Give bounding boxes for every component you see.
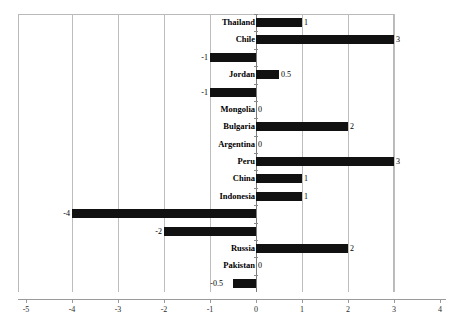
- category-label: Russia: [231, 240, 256, 257]
- x-axis-tick-label: -1: [200, 305, 220, 314]
- category-label: Mongolia: [221, 101, 256, 118]
- bar: [210, 53, 256, 62]
- bar-row: Kyrgyzstan-2: [18, 223, 394, 240]
- bar-value-label: 0.5: [279, 66, 291, 83]
- category-label: Argentina: [218, 136, 256, 153]
- x-axis-tick-label: -2: [154, 305, 174, 314]
- bar-row: India-1: [18, 49, 394, 66]
- category-label: Jordan: [229, 66, 256, 83]
- bar: [256, 157, 394, 166]
- bar-row: China1: [18, 170, 394, 187]
- x-axis-tick-label: -4: [62, 305, 82, 314]
- x-axis-tick-label: -5: [16, 305, 36, 314]
- bar-value-label: 3: [394, 31, 400, 48]
- bar-row: Philippines-4: [18, 205, 394, 222]
- bar-value-label: -0.5: [210, 275, 225, 292]
- x-axis-tick-label: 4: [430, 305, 450, 314]
- category-label: Indonesia: [220, 188, 256, 205]
- bar-row: Russia2: [18, 240, 394, 257]
- bar-row: Chile3: [18, 31, 394, 48]
- x-axis-tick: [26, 299, 27, 303]
- x-axis-tick-label: 3: [384, 305, 404, 314]
- category-label: Thailand: [222, 14, 256, 31]
- x-axis-tick-label: 1: [292, 305, 312, 314]
- bar-row: Argentina0: [18, 136, 394, 153]
- bar-value-label: 1: [302, 14, 308, 31]
- bar-value-label: -4: [63, 205, 72, 222]
- plot-area: Thailand1Chile3India-1Jordan0.5Tanzania-…: [18, 14, 394, 292]
- x-axis-tick-label: 0: [246, 305, 266, 314]
- x-axis-tick: [72, 299, 73, 303]
- category-label: Bulgaria: [223, 118, 256, 135]
- clipped-header-artifact: [86, 0, 316, 7]
- category-label: Peru: [238, 153, 256, 170]
- bar: [256, 174, 302, 183]
- bar-value-label: 2: [348, 118, 354, 135]
- bar-value-label: -1: [201, 84, 210, 101]
- bar-value-label: 0: [256, 257, 262, 274]
- x-axis-line: [18, 299, 446, 300]
- bar-row: Pakistan0: [18, 257, 394, 274]
- category-label: Pakistan: [223, 257, 256, 274]
- x-axis-tick: [302, 299, 303, 303]
- bar-value-label: -2: [155, 223, 164, 240]
- bar-value-label: 1: [302, 188, 308, 205]
- bar-value-label: -1: [201, 49, 210, 66]
- bar: [233, 279, 256, 288]
- bar-value-label: 2: [348, 240, 354, 257]
- bar-row: Mongolia0: [18, 101, 394, 118]
- x-axis-tick: [118, 299, 119, 303]
- bar-value-label: 0: [256, 101, 262, 118]
- bar-value-label: 3: [394, 153, 400, 170]
- bar: [256, 122, 348, 131]
- bar: [256, 244, 348, 253]
- bar: [72, 209, 256, 218]
- bar-chart: Thailand1Chile3India-1Jordan0.5Tanzania-…: [0, 0, 456, 326]
- bar: [256, 35, 394, 44]
- x-axis-tick-label: 2: [338, 305, 358, 314]
- bar-row: Indonesia1: [18, 188, 394, 205]
- x-axis-tick: [210, 299, 211, 303]
- bar-value-label: 0: [256, 136, 262, 153]
- bar-row: Jordan0.5: [18, 66, 394, 83]
- bar: [164, 227, 256, 236]
- bar-value-label: 1: [302, 170, 308, 187]
- x-axis-tick-label: -3: [108, 305, 128, 314]
- x-axis-tick: [348, 299, 349, 303]
- bar: [256, 18, 302, 27]
- x-axis-tick: [164, 299, 165, 303]
- x-axis-tick: [394, 299, 395, 303]
- bar: [210, 88, 256, 97]
- category-label: China: [233, 170, 256, 187]
- bar-row: Peru3: [18, 153, 394, 170]
- x-axis-tick: [256, 299, 257, 303]
- bar: [256, 70, 279, 79]
- bar: [256, 192, 302, 201]
- bar-row: Togo-0.5: [18, 275, 394, 292]
- x-axis-tick: [440, 299, 441, 303]
- bar-row: Tanzania-1: [18, 84, 394, 101]
- bar-row: Thailand1: [18, 14, 394, 31]
- bar-row: Bulgaria2: [18, 118, 394, 135]
- category-label: Chile: [236, 31, 256, 48]
